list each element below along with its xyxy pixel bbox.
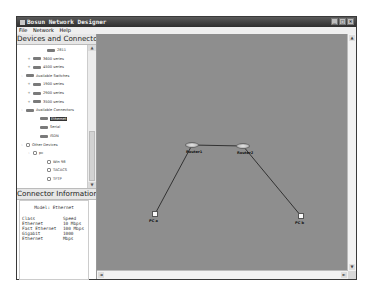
tree-item[interactable]: -pc [27, 149, 43, 157]
switch-icon [33, 100, 41, 103]
menu-help[interactable]: Help [59, 27, 70, 33]
tree-item-label: 2811 [57, 48, 66, 52]
tree-item[interactable]: +3500 series [27, 98, 64, 106]
tree-item-label: Serial [50, 125, 60, 129]
router-icon [47, 49, 55, 52]
tree-item-label: 3600 series [43, 57, 64, 61]
menu-network[interactable]: Network [33, 27, 54, 33]
document-icon [47, 160, 51, 164]
tree-item[interactable]: +3600 series [27, 55, 64, 63]
connector-info: Model: Ethernet ClassSpeed Ethernet10 Mb… [19, 200, 89, 280]
device-tree: 2811+3600 series+4500 series-Available S… [17, 45, 88, 188]
title-bar: Bosun Network Designer _ □ × [17, 17, 356, 27]
tree-scrollbar[interactable]: ▲ ▼ [87, 45, 96, 188]
tree-item-label: Available Switches [36, 74, 69, 78]
tree-item[interactable]: TACACS [41, 166, 67, 174]
cell-speed: 1000 Mbps [63, 231, 86, 241]
tree-item[interactable]: +4500 series [27, 63, 64, 71]
left-pane: Devices and Connectors 2811+3600 series+… [17, 34, 97, 279]
switch-icon [33, 92, 41, 95]
collapse-icon[interactable]: - [20, 141, 24, 149]
collapse-icon[interactable]: - [20, 72, 24, 80]
folder-icon [26, 143, 30, 147]
folder-icon [33, 151, 37, 155]
tree-item-label: Available Connectors [36, 108, 74, 112]
tree-item[interactable]: 2811 [41, 46, 66, 54]
expand-icon[interactable]: + [27, 63, 31, 71]
maximize-button[interactable]: □ [339, 18, 346, 25]
scroll-up-arrow[interactable]: ▲ [88, 45, 96, 51]
tree-item-label: ISDN [50, 134, 59, 138]
document-icon [47, 168, 51, 172]
connector-panel-title: Connector Information [17, 188, 96, 200]
document-icon [47, 177, 51, 181]
scroll-left-arrow[interactable]: ◄ [98, 272, 104, 278]
expand-icon[interactable]: + [27, 55, 31, 63]
menu-file[interactable]: File [19, 27, 27, 33]
tree-item[interactable]: -Available Switches [20, 72, 69, 80]
close-button[interactable]: × [347, 18, 354, 25]
expand-icon[interactable]: + [27, 80, 31, 88]
switch-icon [33, 83, 41, 86]
device-label: Router2 [237, 151, 253, 155]
canvas-horizontal-scrollbar[interactable]: ◄ ► [97, 270, 348, 279]
tree-item[interactable]: Serial [34, 123, 60, 131]
app-icon [20, 20, 25, 25]
connector-icon [40, 126, 48, 129]
link-layer [97, 34, 348, 271]
expand-icon[interactable]: + [27, 98, 31, 106]
scroll-right-arrow[interactable]: ► [341, 272, 347, 278]
tree-item-label: Win 98 [53, 160, 65, 164]
router-icon[interactable] [185, 142, 199, 148]
router-icon[interactable] [236, 143, 250, 149]
tree-item-label: TACACS [53, 168, 67, 172]
collapse-icon[interactable]: - [27, 149, 31, 157]
tree-item[interactable]: ISDN [34, 132, 59, 140]
network-link[interactable] [155, 145, 192, 214]
tree-item-label: 4500 series [43, 65, 64, 69]
window-title: Bosun Network Designer [27, 18, 106, 25]
device-label: Router1 [186, 150, 202, 154]
tree-item-label: 3500 series [43, 100, 64, 104]
scroll-up-arrow[interactable]: ▲ [349, 35, 355, 41]
tree-item[interactable]: TFTP [41, 175, 62, 183]
tree-item[interactable]: Win 98 [41, 158, 65, 166]
tree-item[interactable]: +1900 series [27, 80, 64, 88]
tree-item[interactable]: -Other Devices [20, 141, 58, 149]
tree-item-label: 2900 series [43, 91, 64, 95]
pc-icon[interactable] [152, 211, 158, 217]
tree-item[interactable]: Ethernet [34, 115, 67, 123]
device-label: PC a [149, 219, 158, 223]
switch-icon [26, 74, 34, 77]
connector-model: Model: Ethernet [20, 205, 88, 210]
app-window: Bosun Network Designer _ □ × File Networ… [16, 16, 357, 280]
tree-item-label: pc [39, 151, 43, 155]
minimize-button[interactable]: _ [331, 18, 338, 25]
cell-class: Gigabit Ethernet [22, 231, 63, 241]
tree-item-label: Ethernet [50, 117, 67, 121]
router-icon [33, 57, 41, 60]
canvas-vertical-scrollbar[interactable]: ▲ ▼ [347, 34, 356, 271]
tree-item-label: TFTP [53, 177, 62, 181]
tree-item[interactable]: -Available Connectors [20, 106, 74, 114]
devices-panel-title: Devices and Connectors [17, 34, 96, 45]
network-canvas[interactable]: Router1Router2PC aPC b [97, 34, 348, 271]
connector-speed-table: ClassSpeed Ethernet10 Mbps Fast Ethernet… [22, 216, 86, 241]
scroll-thumb[interactable] [89, 131, 95, 181]
tree-item-label: 1900 series [43, 82, 64, 86]
network-link[interactable] [243, 146, 301, 216]
tree-item[interactable]: +2900 series [27, 89, 64, 97]
connector-icon [26, 109, 34, 112]
tree-item-label: Other Devices [32, 143, 58, 147]
device-label: PC b [295, 221, 304, 225]
pc-icon[interactable] [298, 213, 304, 219]
scroll-down-arrow[interactable]: ▼ [349, 264, 355, 270]
menu-bar: File Network Help [17, 27, 356, 34]
expand-icon[interactable]: + [27, 89, 31, 97]
router-icon [33, 66, 41, 69]
collapse-icon[interactable]: - [20, 106, 24, 114]
connector-icon [40, 135, 48, 138]
connector-icon [40, 117, 48, 120]
